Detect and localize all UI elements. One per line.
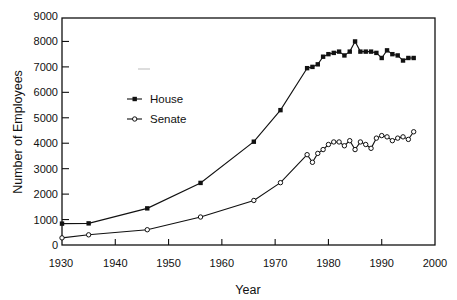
senate-marker [337,140,341,144]
x-tick-label: 1980 [316,257,340,269]
y-tick-label: 0 [52,239,58,251]
senate-marker [252,198,256,202]
senate-marker [316,151,320,155]
senate-marker [369,146,373,150]
senate-marker [326,142,330,146]
legend-senate-label: Senate [150,113,186,125]
senate-marker [278,180,282,184]
senate-marker [411,130,415,134]
house-marker [401,58,405,62]
x-tick-label: 1950 [156,257,180,269]
senate-marker [198,215,202,219]
y-axis-title: Number of Employees [11,70,25,194]
senate-marker [374,136,378,140]
x-axis: 19301940195019601970198019902000 [49,239,447,269]
senate-marker [310,160,314,164]
legend: HouseSenate [127,69,186,125]
y-tick-label: 7000 [34,61,58,73]
house-marker [326,52,330,56]
house-marker [353,39,357,43]
senate-marker [60,236,64,240]
house-marker [252,139,256,143]
house-marker [385,48,389,52]
senate-marker [321,147,325,151]
house-marker [358,49,362,53]
house-marker [198,181,202,185]
house-marker [406,56,410,60]
senate-marker [364,142,368,146]
senate-marker [358,140,362,144]
house-marker [278,108,282,112]
y-tick-label: 4000 [34,137,58,149]
house-marker [86,221,90,225]
y-tick-label: 5000 [34,112,58,124]
x-tick-label: 1930 [49,257,73,269]
y-axis: 0100020003000400050006000700080009000 [34,10,69,251]
y-tick-label: 1000 [34,214,58,226]
x-tick-label: 1940 [103,257,127,269]
house-line [62,41,414,223]
x-axis-title: Year [235,283,260,297]
y-tick-label: 3000 [34,163,58,175]
senate-marker [385,135,389,139]
y-tick-label: 8000 [34,35,58,47]
house-marker [337,49,341,53]
y-tick-label: 2000 [34,188,58,200]
senate-marker [396,136,400,140]
plot-frame [62,18,435,245]
legend-house-label: House [150,93,183,105]
house-marker [60,221,64,225]
legend-senate-marker [133,117,137,121]
senate-marker [353,147,357,151]
house-marker [342,53,346,57]
senate-marker [406,137,410,141]
x-tick-label: 1960 [210,257,234,269]
employees-line-chart: 19301940195019601970198019902000 0100020… [0,0,457,300]
house-marker [321,55,325,59]
series-group [60,39,416,240]
senate-marker [342,144,346,148]
senate-marker [305,152,309,156]
x-tick-label: 2000 [423,257,447,269]
senate-marker [145,228,149,232]
senate-marker [401,135,405,139]
senate-marker [380,133,384,137]
senate-line [62,132,414,238]
y-tick-label: 6000 [34,86,58,98]
x-tick-label: 1990 [369,257,393,269]
plot-border [62,18,435,245]
house-marker [145,206,149,210]
x-tick-label: 1970 [263,257,287,269]
senate-marker [332,140,336,144]
house-marker [411,56,415,60]
house-marker [374,51,378,55]
y-tick-label: 9000 [34,10,58,22]
house-marker [310,65,314,69]
house-marker [348,49,352,53]
legend-house-marker [133,97,137,101]
house-marker [396,53,400,57]
house-marker [380,56,384,60]
house-marker [332,51,336,55]
senate-marker [390,138,394,142]
house-marker [305,66,309,70]
house-marker [369,49,373,53]
senate-marker [348,138,352,142]
house-marker [390,52,394,56]
house-marker [364,49,368,53]
house-marker [316,62,320,66]
senate-marker [86,233,90,237]
